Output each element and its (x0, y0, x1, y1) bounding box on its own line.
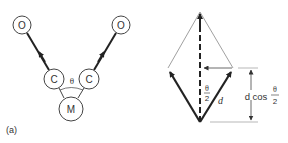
half-angle-denominator: 2 (205, 94, 210, 103)
atom-metal: M (59, 97, 83, 121)
angle-theta-label: θ (70, 76, 74, 86)
svg-text:M: M (67, 104, 75, 115)
projection-frac-numerator: θ (273, 85, 277, 94)
projection-formula: d cos θ 2 (245, 85, 279, 106)
atom-c-left: C (44, 69, 64, 89)
diagram-canvas: O O C C M θ (a) θ (0, 0, 288, 143)
dipole-arrow-left (39, 52, 45, 62)
atom-c-right: C (79, 69, 99, 89)
panel-label-a: (a) (6, 125, 17, 135)
projection-prefix: d cos (245, 91, 268, 102)
projection-frac-denominator: 2 (273, 97, 278, 106)
vector-left (170, 72, 200, 122)
svg-text:C: C (50, 74, 57, 85)
svg-text:d cos: d cos (245, 91, 268, 102)
atom-o-right: O (112, 16, 130, 34)
dipole-arrow-right (98, 52, 104, 62)
atom-o-left: O (13, 16, 31, 34)
svg-text:O: O (117, 20, 125, 31)
rhombus-edge-top-right (200, 12, 233, 68)
half-angle-numerator: θ (205, 84, 209, 93)
svg-text:C: C (85, 74, 92, 85)
vector-diagram: θ 2 d d cos θ 2 (168, 12, 279, 122)
molecule-diagram: O O C C M θ (13, 16, 130, 121)
bond-c-o-right (94, 33, 116, 70)
svg-text:O: O (18, 20, 26, 31)
bond-c-o-left (27, 33, 49, 70)
angle-arc (60, 88, 83, 91)
vector-magnitude-label: d (218, 95, 224, 106)
rhombus-edge-top-left (168, 12, 200, 68)
